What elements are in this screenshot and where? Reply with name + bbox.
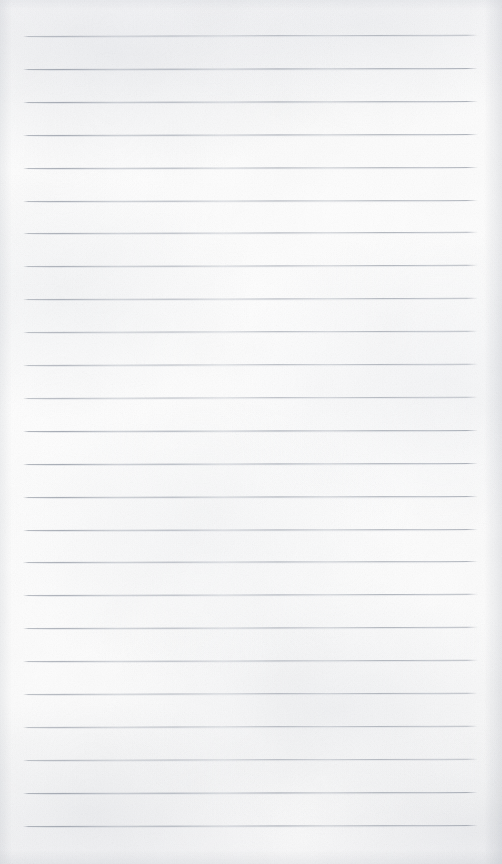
ruled-line <box>23 825 478 827</box>
ruled-line <box>23 693 478 695</box>
ruled-line <box>23 528 478 530</box>
ruled-line <box>23 101 478 103</box>
ruled-line <box>23 68 478 70</box>
ruled-line <box>23 35 478 37</box>
ruled-line <box>23 265 478 267</box>
ruled-line <box>23 364 478 366</box>
ruled-line <box>23 430 478 432</box>
ruled-line <box>23 496 478 498</box>
ruled-line <box>23 463 478 465</box>
ruled-line <box>23 726 478 728</box>
ruled-line <box>23 627 478 629</box>
ruled-line <box>23 298 478 300</box>
ruled-line <box>23 331 478 333</box>
ruled-line <box>23 792 478 794</box>
ruled-line <box>23 594 478 596</box>
ruled-line <box>23 167 478 169</box>
ruled-line <box>23 134 478 136</box>
scanned-page <box>0 0 502 864</box>
ruled-line <box>23 660 478 662</box>
ruled-line <box>23 199 478 201</box>
ruled-line <box>23 232 478 234</box>
ruled-line <box>23 758 478 760</box>
ruled-line <box>23 397 478 399</box>
ruled-line <box>23 561 478 563</box>
ruled-lines-group <box>0 0 502 864</box>
